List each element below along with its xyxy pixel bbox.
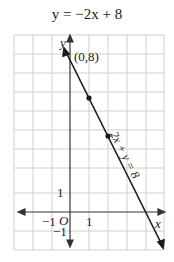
- line-2x-plus-y-8: [63, 48, 164, 248]
- y-tick-neg1: −1: [53, 224, 67, 239]
- y-tick-1: 1: [57, 185, 64, 200]
- y-axis-label: y: [58, 35, 66, 50]
- x-tick-1: 1: [86, 214, 93, 229]
- x-axis-label: x: [154, 216, 161, 231]
- line-label: 2x + y = 8: [107, 129, 143, 181]
- point-label: (0,8): [74, 49, 99, 64]
- coordinate-graph: y (0,8) 2x + y = 8 x 1 −1 O 1 −1: [0, 0, 174, 262]
